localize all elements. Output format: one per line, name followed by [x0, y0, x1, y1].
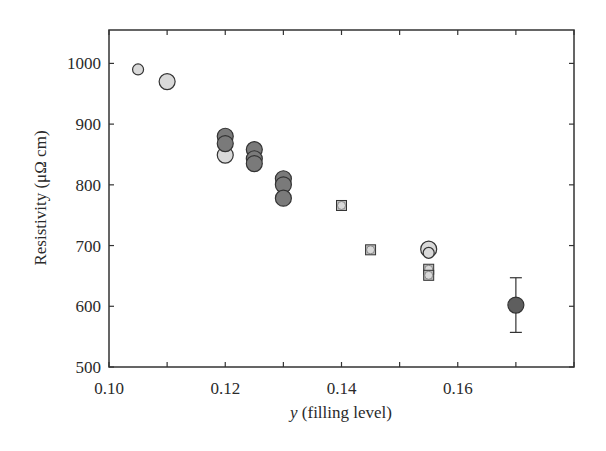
y-tick-labels: 5006007008009001000 [67, 54, 101, 377]
y-axis-label: Resistivity (μΩ cm) [31, 130, 50, 265]
x-tick-label: 0.12 [210, 379, 240, 398]
data-point [366, 245, 376, 255]
data-point [217, 136, 233, 152]
data-point [424, 270, 434, 280]
x-tick-label: 0.16 [443, 379, 473, 398]
x-tick-labels: 0.100.120.140.16 [94, 379, 473, 398]
y-tick-label: 800 [76, 176, 102, 195]
data-point [246, 156, 262, 172]
y-tick-label: 900 [76, 115, 102, 134]
data-point [423, 247, 434, 258]
y-tick-label: 500 [76, 358, 102, 377]
y-tick-label: 600 [76, 297, 102, 316]
plot-frame [109, 30, 574, 367]
data-point [508, 278, 524, 333]
scatter-chart: 0.100.120.140.16 5006007008009001000 y (… [0, 0, 606, 451]
x-tick-label: 0.14 [327, 379, 357, 398]
y-tick-label: 700 [76, 237, 102, 256]
data-points [133, 64, 524, 332]
y-tick-label: 1000 [67, 54, 101, 73]
data-point [159, 74, 175, 90]
data-point [337, 200, 347, 210]
x-axis-label: y (filling level) [288, 403, 392, 422]
axis-ticks [109, 30, 574, 367]
data-point [275, 190, 291, 206]
data-point [133, 64, 144, 75]
x-tick-label: 0.10 [94, 379, 124, 398]
